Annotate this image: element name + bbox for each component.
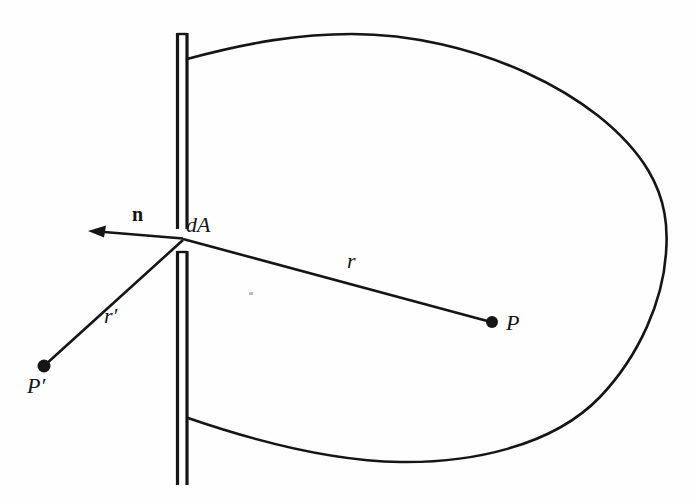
point-P-prime-label: P′ [27,375,45,397]
distance-r-prime-label: r′ [104,305,117,327]
scan-speck [249,292,253,295]
normal-vector-label: n [132,204,143,224]
figure-canvas: n dA r r′ P P′ [0,0,698,504]
distance-r-label: r [347,250,356,272]
normal-arrow-head-icon [88,226,106,238]
ray-r-line [183,239,491,322]
enclosure-curve [187,34,667,462]
area-element-label: dA [186,214,210,236]
point-P-dot [486,316,498,328]
point-P-label: P [506,312,519,334]
normal-arrow-shaft [98,232,183,239]
point-P-prime-dot [38,360,51,373]
